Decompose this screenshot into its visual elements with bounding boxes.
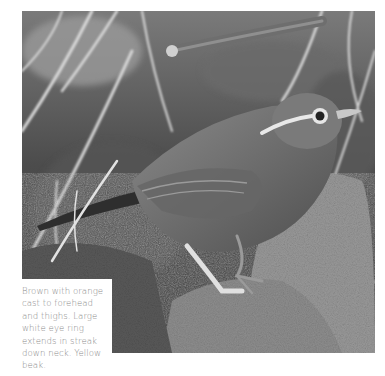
photo-caption: Brown with orange cast to forehead and t… bbox=[22, 279, 112, 353]
caption-text: Brown with orange cast to forehead and t… bbox=[22, 285, 112, 372]
